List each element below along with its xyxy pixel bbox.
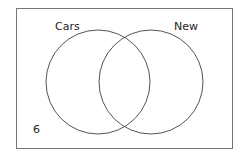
circle-new xyxy=(99,30,203,134)
set-label-cars: Cars xyxy=(55,20,80,33)
circle-cars xyxy=(46,30,150,134)
universal-set-box xyxy=(17,9,233,149)
set-label-new: New xyxy=(174,20,198,33)
outside-value: 6 xyxy=(33,123,40,136)
